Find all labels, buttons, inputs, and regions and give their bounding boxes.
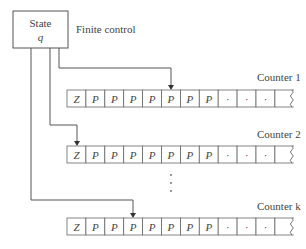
tape-cell-symbol: · bbox=[226, 149, 229, 161]
tape-cell-symbol: · bbox=[264, 149, 267, 161]
state-variable: q bbox=[38, 31, 44, 43]
tape-cell-symbol: · bbox=[264, 93, 267, 105]
tape-cell-symbol: · bbox=[245, 149, 248, 161]
connector-counter-1 bbox=[59, 48, 171, 87]
tape-cell-symbol: · bbox=[245, 93, 248, 105]
counter-2-label: Counter 2 bbox=[257, 128, 301, 140]
tape-cell-symbol: P bbox=[167, 221, 175, 233]
counter-1-label: Counter 1 bbox=[257, 71, 301, 83]
connector-counter-k bbox=[31, 48, 133, 215]
state-box: State q bbox=[13, 11, 68, 48]
counter-k-tape: ZPPPPPPP··· bbox=[67, 218, 294, 235]
state-title: State bbox=[30, 17, 52, 29]
tape-cell-symbol: P bbox=[91, 221, 99, 233]
tape-cell bbox=[275, 218, 294, 235]
tape-cell-symbol: · bbox=[226, 93, 229, 105]
tape-cell-symbol: P bbox=[91, 149, 99, 161]
tape-cell-symbol: P bbox=[110, 93, 118, 105]
tape-cell bbox=[275, 90, 294, 107]
multi-counter-machine-diagram: State q Finite control Counter 1 Counter… bbox=[0, 0, 306, 249]
tape-cell-symbol: P bbox=[185, 93, 193, 105]
tape-cell-symbol: P bbox=[167, 93, 175, 105]
tape-cell-symbol: P bbox=[167, 149, 175, 161]
tape-cell-symbol: P bbox=[110, 149, 118, 161]
tape-cell-symbol: Z bbox=[73, 93, 80, 105]
tape-cell-symbol: P bbox=[204, 93, 212, 105]
counter-k-label: Counter k bbox=[257, 200, 301, 212]
tape-cell-symbol: · bbox=[245, 221, 248, 233]
tape-cell-symbol: P bbox=[204, 221, 212, 233]
tape-cell-symbol: · bbox=[264, 221, 267, 233]
arrow-head-icon bbox=[74, 141, 80, 146]
tape-cell bbox=[275, 146, 294, 163]
tape-cell-symbol: P bbox=[129, 93, 137, 105]
counter-2-tape: ZPPPPPPP··· bbox=[67, 146, 294, 163]
tape-cell-symbol: P bbox=[148, 149, 156, 161]
arrow-head-icon bbox=[130, 213, 136, 218]
head-connectors bbox=[31, 48, 171, 215]
tape-cell-symbol: P bbox=[185, 149, 193, 161]
tape-cell-symbol: Z bbox=[73, 149, 80, 161]
counter-1-tape: ZPPPPPPP··· bbox=[67, 90, 294, 107]
arrow-head-icon bbox=[168, 85, 174, 90]
tape-cell-symbol: P bbox=[185, 221, 193, 233]
tape-cell-symbol: P bbox=[129, 221, 137, 233]
tape-cell-symbol: P bbox=[91, 93, 99, 105]
tape-cell-symbol: P bbox=[110, 221, 118, 233]
tape-cell-symbol: Z bbox=[73, 221, 80, 233]
tape-cell-symbol: P bbox=[148, 221, 156, 233]
tape-cell-symbol: P bbox=[129, 149, 137, 161]
tape-cell-symbol: · bbox=[226, 221, 229, 233]
tape-cell-symbol: P bbox=[148, 93, 156, 105]
finite-control-label: Finite control bbox=[76, 23, 136, 35]
vertical-ellipsis bbox=[170, 174, 172, 192]
tape-cell-symbol: P bbox=[204, 149, 212, 161]
